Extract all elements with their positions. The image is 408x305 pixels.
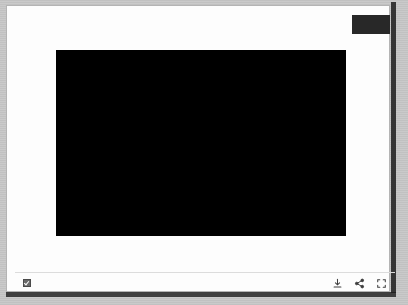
stacked-area-chart xyxy=(56,50,346,236)
relative-checkbox[interactable] xyxy=(23,279,31,287)
chart-plot-wrapper xyxy=(20,46,380,254)
download-icon[interactable] xyxy=(332,278,343,289)
area-not-in-poverty xyxy=(56,50,346,236)
plot-area[interactable] xyxy=(56,50,346,236)
fullscreen-icon[interactable] xyxy=(376,278,387,289)
chart-toolbar xyxy=(15,272,395,297)
y-axis xyxy=(20,46,54,236)
screenshot-root xyxy=(0,0,408,305)
x-axis xyxy=(56,240,356,256)
owid-logo[interactable] xyxy=(352,15,390,34)
chart-card xyxy=(7,6,389,291)
toolbar-actions xyxy=(332,278,387,289)
source-row xyxy=(21,261,381,272)
relative-toggle[interactable] xyxy=(23,279,34,287)
page-edge-right xyxy=(391,2,396,293)
share-icon[interactable] xyxy=(354,278,365,289)
